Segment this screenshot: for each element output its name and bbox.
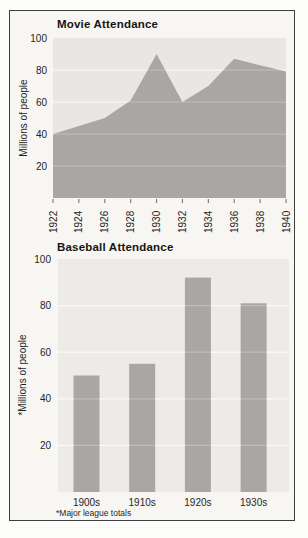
movie-y-tick-label: 60 (36, 97, 48, 108)
movie-x-tick-label: 1924 (73, 210, 84, 233)
movie-x-tick-label: 1928 (125, 210, 136, 233)
baseball-bar (185, 278, 211, 492)
baseball-y-tick-label: 60 (40, 347, 52, 358)
chart-panel-frame: Movie Attendance 20406080100192219241926… (9, 10, 295, 521)
movie-x-tick-label: 1930 (151, 210, 162, 233)
baseball-x-category-label: 1930s (240, 497, 267, 508)
movie-y-tick-label: 80 (36, 65, 48, 76)
baseball-y-tick-label: 20 (40, 440, 52, 451)
baseball-x-category-label: 1910s (129, 497, 156, 508)
movie-x-tick-label: 1938 (255, 210, 266, 233)
baseball-x-category-label: 1920s (184, 497, 211, 508)
baseball-y-tick-label: 100 (34, 254, 51, 265)
movie-y-tick-label: 20 (36, 161, 48, 172)
movie-y-tick-label: 100 (30, 33, 47, 44)
movie-x-tick-label: 1922 (48, 210, 59, 233)
movie-x-tick-label: 1940 (281, 210, 292, 233)
baseball-bar (241, 303, 267, 492)
baseball-y-tick-label: 40 (40, 393, 52, 404)
baseball-y-axis-title: *Millions of people (17, 334, 28, 416)
baseball-x-category-label: 1900s (73, 497, 100, 508)
baseball-bar (74, 376, 100, 493)
baseball-y-tick-label: 80 (40, 300, 52, 311)
baseball-attendance-bar-chart: 204060801001900s1910s1920s1930s*Millions… (10, 240, 296, 521)
movie-x-tick-label: 1932 (177, 210, 188, 233)
baseball-bar (129, 364, 155, 492)
movie-y-tick-label: 40 (36, 129, 48, 140)
movie-y-axis-title: Millions of people (18, 79, 29, 157)
movie-x-tick-label: 1936 (229, 210, 240, 233)
movie-x-tick-label: 1934 (203, 210, 214, 233)
scanned-page: Movie Attendance 20406080100192219241926… (0, 0, 308, 538)
movie-x-tick-label: 1926 (99, 210, 110, 233)
movie-attendance-area-chart: 2040608010019221924192619281930193219341… (10, 11, 296, 240)
baseball-footnote: *Major league totals (56, 508, 131, 518)
